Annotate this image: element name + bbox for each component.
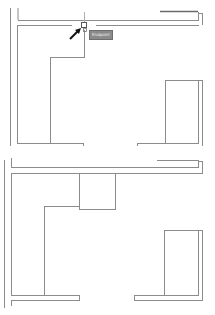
snap-endpoint-marker-icon <box>82 23 87 28</box>
right-room-rect <box>165 231 199 296</box>
added-box-rect <box>80 174 116 210</box>
drawing-viewport-top[interactable]: Endpoint <box>0 0 215 150</box>
right-room-rect <box>166 81 199 144</box>
floor-plan-drawing-edited[interactable] <box>0 150 215 315</box>
snap-tooltip: Endpoint <box>89 30 113 40</box>
drawing-viewport-bottom[interactable] <box>0 150 215 315</box>
floor-plan-drawing[interactable] <box>0 0 215 150</box>
cursor-arrow-icon <box>70 28 81 39</box>
